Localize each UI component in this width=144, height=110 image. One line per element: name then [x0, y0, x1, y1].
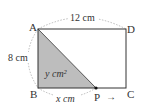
vertex-B-label: B: [30, 88, 37, 100]
vertex-A-label: A: [29, 21, 37, 33]
left-side-label: 8 cm: [8, 52, 28, 63]
top-side-label: 12 cm: [70, 12, 95, 23]
rectangle-diagram: A D B C P 12 cm 8 cm x cm y cm² →: [0, 0, 144, 110]
arrow-icon: →: [106, 91, 116, 102]
vertex-P-label: P: [94, 91, 100, 103]
vertex-C-label: C: [127, 88, 134, 100]
point-P: [94, 86, 97, 89]
vertex-D-label: D: [127, 23, 135, 35]
area-label: y cm²: [44, 68, 68, 79]
bottom-segment-label: x cm: [55, 93, 75, 104]
